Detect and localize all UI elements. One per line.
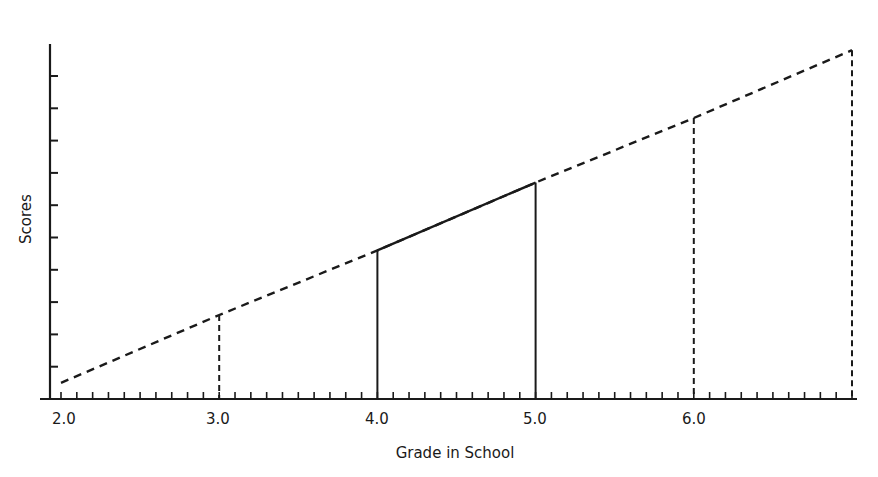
chart-plot-area [0, 0, 878, 477]
x-tick-label-3: 3.0 [198, 410, 238, 428]
axes [40, 44, 857, 400]
x-tick-label-2: 2.0 [44, 410, 84, 428]
data-lines [61, 50, 852, 399]
x-tick-label-4: 4.0 [357, 410, 397, 428]
y-axis-label: Scores [17, 204, 35, 244]
x-tick-label-5: 5.0 [515, 410, 555, 428]
solid-observed-line [377, 183, 535, 251]
x-axis-label: Grade in School [330, 444, 580, 462]
x-tick-label-6: 6.0 [674, 410, 714, 428]
